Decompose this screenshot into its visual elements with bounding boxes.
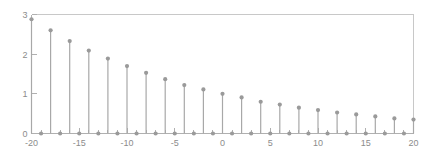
x-axis-tick-labels: -20-15-10-505101520 [25, 138, 419, 148]
y-tick-label: 2 [22, 50, 27, 60]
stem-marker [144, 71, 148, 75]
stem-marker [125, 64, 129, 68]
stem-marker [230, 131, 234, 135]
stem-marker [364, 131, 368, 135]
stem-plot-figure: -20-15-10-505101520 0123 [0, 0, 436, 166]
stem-marker [249, 131, 253, 135]
stem-marker [306, 131, 310, 135]
stem-marker [134, 131, 138, 135]
stem-series [29, 17, 415, 135]
stem-marker [278, 102, 282, 106]
stem-marker [402, 131, 406, 135]
stem-marker [297, 106, 301, 110]
stem-marker [373, 114, 377, 118]
stem-marker [192, 131, 196, 135]
stem-marker [345, 131, 349, 135]
y-axis-ticks [32, 15, 37, 134]
stem-marker [316, 108, 320, 112]
plot-canvas: -20-15-10-505101520 0123 [0, 0, 436, 166]
stem-marker [115, 131, 119, 135]
stem-marker [163, 77, 167, 81]
stem-marker [58, 131, 62, 135]
x-tick-label: -5 [171, 138, 179, 148]
stem-marker [392, 116, 396, 120]
stem-marker [182, 83, 186, 87]
x-tick-label: -20 [25, 138, 38, 148]
y-tick-label: 3 [22, 10, 27, 20]
stem-marker [87, 48, 91, 52]
x-tick-label: -15 [73, 138, 86, 148]
stem-marker [29, 17, 33, 21]
stem-marker [240, 95, 244, 99]
stem-marker [154, 131, 158, 135]
stem-marker [287, 131, 291, 135]
stem-marker [68, 39, 72, 43]
stem-marker [201, 87, 205, 91]
stem-marker [383, 131, 387, 135]
stem-marker [335, 110, 339, 114]
stem-marker [39, 131, 43, 135]
y-axis-tick-labels: 0123 [22, 10, 27, 139]
x-tick-label: 5 [268, 138, 273, 148]
x-tick-label: 0 [220, 138, 225, 148]
stem-marker [211, 131, 215, 135]
x-tick-label: 10 [313, 138, 323, 148]
stem-marker [77, 131, 81, 135]
stem-marker [268, 131, 272, 135]
x-tick-label: 20 [408, 138, 418, 148]
stem-marker [96, 131, 100, 135]
stem-marker [106, 56, 110, 60]
stem-marker [354, 112, 358, 116]
stem-marker [325, 131, 329, 135]
x-tick-label: 15 [361, 138, 371, 148]
y-tick-label: 1 [22, 89, 27, 99]
stem-marker [411, 118, 415, 122]
stem-marker [49, 28, 53, 32]
stem-marker [173, 131, 177, 135]
x-tick-label: -10 [120, 138, 133, 148]
stem-marker [259, 100, 263, 104]
y-tick-label: 0 [22, 129, 27, 139]
stem-marker [220, 92, 224, 96]
